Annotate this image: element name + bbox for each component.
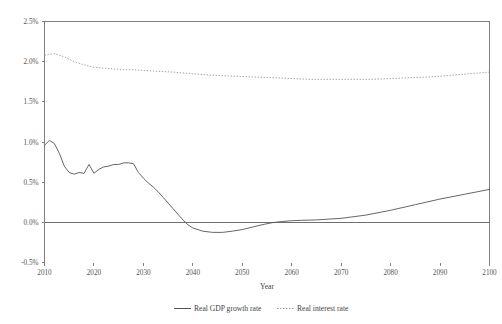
x-tick-label: 2010	[37, 269, 52, 277]
series-group	[45, 54, 490, 233]
y-tick-label: 2.0%	[24, 58, 39, 66]
y-tick-label: -0.5%	[21, 259, 38, 267]
y-tick-label: 1.0%	[24, 139, 39, 147]
x-tick-label: 2090	[433, 269, 448, 277]
series-line-1	[45, 140, 490, 232]
x-tick-label: 2060	[285, 269, 300, 277]
x-tick-label: 2100	[482, 269, 497, 277]
x-axis-title: Year	[260, 282, 274, 291]
x-tick-label: 2080	[383, 269, 398, 277]
x-axis-ticks: 2010202020302040205020602070208020902100	[37, 263, 497, 277]
chart-legend: Real GDP growth rateReal interest rate	[174, 304, 349, 313]
x-tick-label: 2050	[235, 269, 250, 277]
y-axis-ticks: 2.5%2.0%1.5%1.0%0.5%0.0%-0.5%	[21, 18, 44, 267]
x-tick-label: 2020	[87, 269, 102, 277]
legend-label-2: Real interest rate	[297, 304, 349, 313]
series-line-2	[45, 54, 490, 80]
x-tick-label: 2030	[136, 269, 151, 277]
chart-container: 2.5%2.0%1.5%1.0%0.5%0.0%-0.5% 2010202020…	[0, 0, 502, 324]
plot-frame	[45, 22, 490, 263]
legend-label-1: Real GDP growth rate	[194, 304, 262, 313]
line-chart: 2.5%2.0%1.5%1.0%0.5%0.0%-0.5% 2010202020…	[0, 0, 502, 324]
axis-frame	[45, 22, 490, 263]
x-tick-label: 2040	[186, 269, 201, 277]
y-tick-label: 0.5%	[24, 179, 39, 187]
x-tick-label: 2070	[334, 269, 349, 277]
y-tick-label: 0.0%	[24, 219, 39, 227]
y-tick-label: 2.5%	[24, 18, 39, 26]
y-tick-label: 1.5%	[24, 98, 39, 106]
